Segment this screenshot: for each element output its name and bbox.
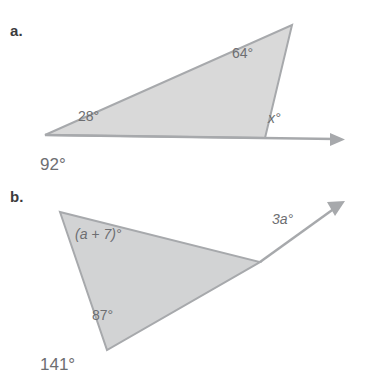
ray-a-arrowhead — [330, 133, 345, 146]
ray-b-arrowhead — [327, 201, 345, 216]
problem-b-figure — [30, 190, 360, 355]
angle-a-exterior-x: x° — [268, 110, 281, 126]
angle-b-interior-top-left: (a + 7)° — [75, 226, 121, 242]
problem-a-label: a. — [10, 22, 23, 39]
problem-a-figure — [30, 10, 350, 150]
angle-b-exterior-3a: 3a° — [272, 211, 293, 227]
worksheet-page: a. 64° 28° x° 92° b. (a + 7)° 3a° 87° 14… — [0, 0, 367, 380]
angle-a-interior-top-right: 64° — [232, 45, 253, 61]
problem-a-answer: 92° — [40, 155, 66, 175]
angle-a-interior-left: 28° — [78, 108, 99, 124]
problem-b-answer: 141° — [40, 355, 75, 375]
angle-b-interior-bottom: 87° — [92, 307, 113, 323]
problem-b-label: b. — [10, 188, 24, 205]
